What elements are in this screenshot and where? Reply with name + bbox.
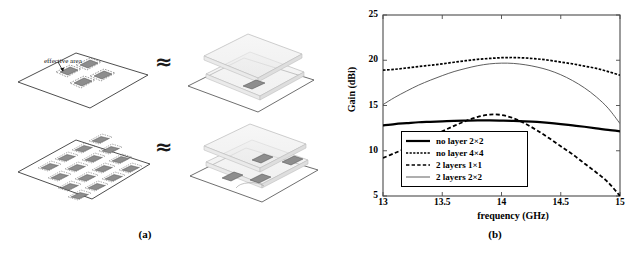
- legend-item: no layer 4×4: [405, 147, 523, 159]
- y-tick-label: 15: [352, 100, 378, 110]
- legend-item: 2 layers 2×2: [405, 171, 523, 183]
- series-line: [383, 58, 620, 76]
- legend-swatch-solid-thin: [405, 172, 431, 182]
- effective-area-label: effective area: [44, 57, 82, 65]
- panel-a-diagrams: effective area ≈ ≈: [0, 0, 320, 255]
- y-tick-label: 10: [352, 145, 378, 155]
- approx-symbol-top: ≈: [155, 52, 173, 73]
- layer-stack-2x2: [190, 124, 318, 202]
- x-axis-label: frequency (GHz): [363, 210, 644, 221]
- x-tick-label: 13: [366, 197, 400, 207]
- legend-item: no layer 2×2: [405, 135, 523, 147]
- layer-stack-1x1: [188, 34, 314, 112]
- legend-swatch-solid-thick: [405, 136, 431, 146]
- y-tick-label: 25: [352, 9, 378, 19]
- x-tick-label: 14: [485, 197, 519, 207]
- diagram-svg: [0, 0, 320, 225]
- substrate-4x4-array: [18, 134, 150, 200]
- series-line: [383, 120, 620, 131]
- chart-legend: no layer 2×2 no layer 4×4 2 layers 1×1 2…: [401, 131, 528, 187]
- legend-swatch-dashed-coarse: [405, 160, 431, 170]
- caption-panel-b: (b): [470, 228, 520, 240]
- legend-label-1: no layer 4×4: [436, 148, 483, 158]
- x-tick-label: 13.5: [425, 197, 459, 207]
- x-tick-label: 14.5: [544, 197, 578, 207]
- figure-container: effective area ≈ ≈ (a) Gain (dBi) freque…: [0, 0, 644, 255]
- substrate-2x2-array: [18, 53, 148, 108]
- legend-label-3: 2 layers 2×2: [436, 172, 482, 182]
- caption-panel-a: (a): [120, 228, 170, 240]
- legend-swatch-dashed-fine: [405, 148, 431, 158]
- legend-label-2: 2 layers 1×1: [436, 160, 482, 170]
- panel-b-chart: Gain (dBi) frequency (GHz) 510152025 131…: [320, 0, 644, 255]
- approx-symbol-bottom: ≈: [155, 137, 173, 158]
- series-line: [383, 63, 620, 123]
- x-tick-label: 15: [603, 197, 637, 207]
- legend-item: 2 layers 1×1: [405, 159, 523, 171]
- legend-label-0: no layer 2×2: [436, 136, 483, 146]
- y-tick-label: 20: [352, 54, 378, 64]
